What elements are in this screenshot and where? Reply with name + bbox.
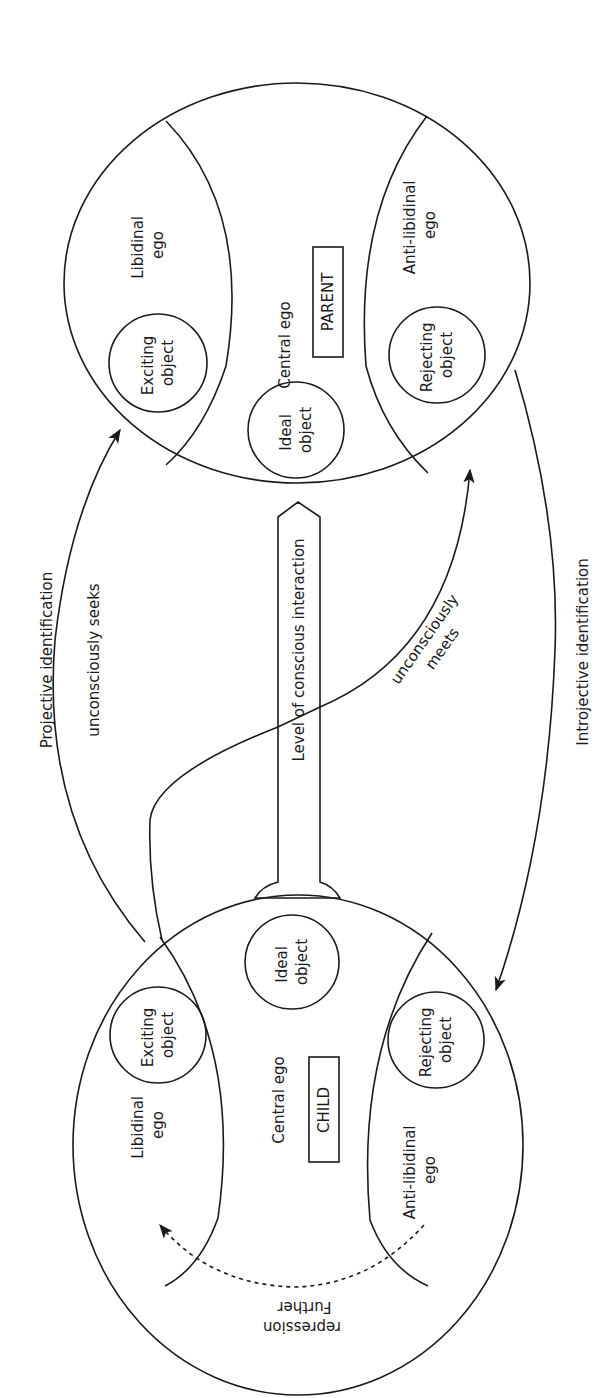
- conscious-interaction-channel: Level of conscious interaction: [255, 502, 340, 898]
- child-exciting-object-circle: [110, 987, 206, 1083]
- child-libidinal-ego-label: Libidinal ego: [129, 1091, 167, 1159]
- child-anti-libidinal-ego-label: Anti-libidinal ego: [401, 1121, 439, 1220]
- further-repression-label: Further repression: [263, 1298, 341, 1336]
- child-box-label: CHILD: [315, 1087, 333, 1133]
- child-ideal-object-circle: [245, 915, 339, 1009]
- parent-rejecting-object-label: Rejecting object: [418, 318, 456, 392]
- child-rejecting-object-circle: [388, 992, 484, 1088]
- parent-exciting-object-circle: [109, 314, 207, 412]
- parent-central-ego-label: Central ego: [276, 301, 294, 388]
- parent-box-label: PARENT: [319, 272, 337, 331]
- child-libidinal-ego-boundary: [160, 937, 223, 1286]
- parent-libidinal-ego-boundary: [166, 121, 232, 465]
- object-relations-diagram: Libidinal ego Central ego PARENT Anti-li…: [0, 0, 611, 1398]
- child-ideal-object-label: Ideal object: [273, 939, 311, 985]
- parent-rejecting-object-circle: [389, 307, 485, 403]
- introjective-identification-label: Introjective identification: [574, 558, 592, 746]
- parent-ideal-object-circle: [248, 382, 344, 478]
- child-rejecting-object-label: Rejecting object: [417, 1003, 455, 1077]
- unconsciously-seeks-label: unconsciously seeks: [85, 583, 103, 736]
- parent-exciting-object-label: Exciting object: [139, 331, 177, 395]
- child-central-ego-label: Central ego: [270, 1056, 288, 1143]
- parent-libidinal-ego-label: Libidinal ego: [129, 211, 167, 279]
- parent-anti-libidinal-ego-label: Anti-libidinal ego: [401, 176, 439, 275]
- parent-ideal-object-label: Ideal object: [277, 407, 315, 453]
- channel-label: Level of conscious interaction: [290, 538, 308, 761]
- child-structure: Libidinal ego Central ego CHILD Anti-lib…: [73, 895, 523, 1395]
- parent-structure: Libidinal ego Central ego PARENT Anti-li…: [64, 83, 530, 483]
- parent-anti-libidinal-ego-boundary: [364, 116, 428, 473]
- projective-identification-label: Projective identification: [38, 572, 56, 748]
- child-anti-libidinal-ego-boundary: [368, 933, 432, 1286]
- introjective-identification-arrow: [496, 370, 556, 990]
- child-exciting-object-label: Exciting object: [139, 1003, 177, 1067]
